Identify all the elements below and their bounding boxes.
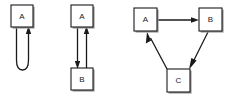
node-a-panel1[interactable]: A bbox=[11, 5, 35, 29]
edge-c-to-a-panel3-line bbox=[151, 38, 168, 69]
panel-three-cycle: A B C bbox=[134, 8, 224, 94]
node-a-panel1-label: A bbox=[19, 12, 25, 21]
graph-diagram-figure: A A B bbox=[0, 0, 231, 100]
node-c-panel3-label: C bbox=[176, 76, 182, 85]
edge-b-to-c-panel3-line bbox=[193, 32, 209, 63]
node-b-panel3-label: B bbox=[208, 15, 213, 24]
panel-self-loop: A bbox=[11, 5, 35, 70]
node-a-panel2-label: A bbox=[79, 12, 85, 21]
panel-two-cycle: A B bbox=[71, 5, 95, 92]
node-a-panel3-label: A bbox=[143, 15, 149, 24]
edge-b-to-c-panel3 bbox=[189, 32, 208, 70]
edge-a-to-b-panel3 bbox=[158, 17, 199, 22]
node-b-panel2[interactable]: B bbox=[71, 68, 95, 92]
node-c-panel3[interactable]: C bbox=[167, 69, 192, 94]
edge-a-to-b-panel2 bbox=[75, 27, 80, 69]
node-b-panel2-label: B bbox=[79, 75, 84, 84]
node-a-panel3[interactable]: A bbox=[134, 8, 159, 33]
edge-a-to-a bbox=[17, 26, 32, 70]
edge-b-to-c-panel3-arrowhead bbox=[189, 58, 197, 70]
edge-c-to-a-panel3-arrowhead bbox=[146, 32, 151, 44]
node-b-panel3[interactable]: B bbox=[199, 8, 224, 33]
edge-c-to-a-panel3 bbox=[146, 32, 167, 69]
node-a-panel2[interactable]: A bbox=[71, 5, 95, 29]
edge-a-to-b-panel3-arrowhead bbox=[191, 17, 199, 22]
edge-b-to-a-panel2 bbox=[84, 26, 89, 68]
